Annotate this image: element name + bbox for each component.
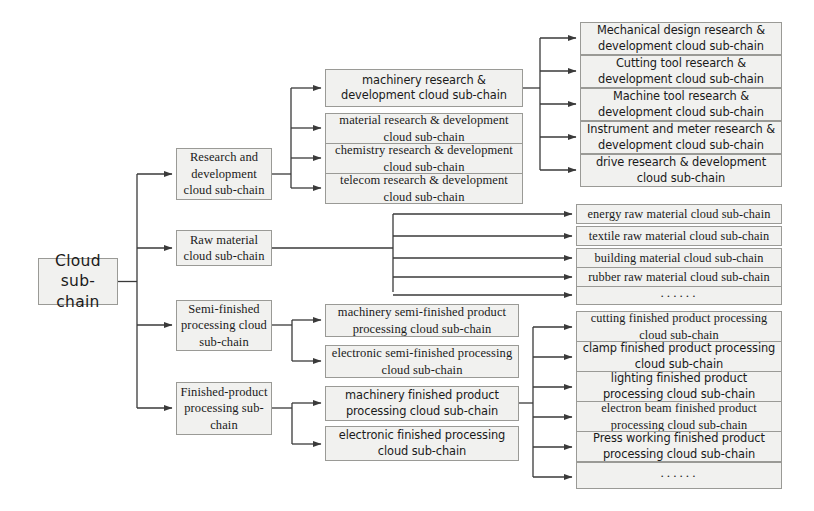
node-label: drive research & development cloud sub-c… (584, 155, 778, 185)
node-cutting-finished[interactable]: cutting finished product processing clou… (576, 311, 782, 342)
node-rubber-raw-material[interactable]: rubber raw material cloud sub-chain (576, 267, 782, 287)
node-finished-more[interactable]: ······ (576, 462, 782, 489)
node-electronic-finished[interactable]: electronic finished processing cloud sub… (325, 426, 519, 461)
node-chemistry-rd[interactable]: chemistry research & development cloud s… (325, 143, 523, 174)
node-clamp-finished[interactable]: clamp finished product processing cloud … (576, 341, 782, 372)
node-label: lighting finished product processing clo… (580, 371, 778, 401)
node-label: telecom research & development cloud sub… (329, 172, 519, 205)
node-label: electron beam finished product processin… (580, 400, 778, 432)
node-building-material[interactable]: building material cloud sub-chain (576, 248, 782, 268)
node-label: Semi-finished processing cloud sub-chain (180, 301, 268, 351)
node-label: ······ (580, 467, 778, 484)
node-machine-tool-rd[interactable]: Machine tool research & development clou… (580, 88, 782, 121)
node-mechanical-design-rd[interactable]: Mechanical design research & development… (580, 22, 782, 55)
node-label: ······ (580, 287, 778, 304)
node-label: machinery semi-finished product processi… (329, 304, 515, 337)
node-machinery-semi-finished[interactable]: machinery semi-finished product processi… (325, 304, 519, 337)
node-label: material research & development cloud su… (329, 112, 519, 145)
node-machinery-rd[interactable]: machinery research & development cloud s… (325, 69, 523, 107)
node-label: chemistry research & development cloud s… (329, 142, 519, 175)
node-lighting-finished[interactable]: lighting finished product processing clo… (576, 371, 782, 402)
node-label: Mechanical design research & development… (584, 23, 778, 53)
node-electron-beam-finished[interactable]: electron beam finished product processin… (576, 401, 782, 432)
node-raw-material-more[interactable]: ······ (576, 286, 782, 305)
node-label: Instrument and meter research & developm… (584, 122, 778, 152)
node-label: Machine tool research & development clou… (584, 89, 778, 119)
node-raw-material[interactable]: Raw material cloud sub-chain (176, 230, 272, 266)
node-label: machinery finished product processing cl… (329, 388, 515, 418)
node-label: machinery research & development cloud s… (329, 73, 519, 103)
node-finished-product-processing[interactable]: Finished-product processing sub-chain (176, 382, 272, 435)
node-label: textile raw material cloud sub-chain (580, 228, 778, 244)
node-cutting-tool-rd[interactable]: Cutting tool research & development clou… (580, 55, 782, 88)
node-press-working-finished[interactable]: Press working finished product processin… (576, 431, 782, 462)
node-label: cutting finished product processing clou… (580, 310, 778, 342)
node-label: electronic semi-finished processing clou… (329, 345, 515, 378)
diagram-canvas: Cloud sub-chain Research and development… (0, 0, 814, 511)
node-label: electronic finished processing cloud sub… (329, 428, 515, 458)
node-machinery-finished[interactable]: machinery finished product processing cl… (325, 386, 519, 421)
node-label: rubber raw material cloud sub-chain (580, 269, 778, 285)
node-drive-rd[interactable]: drive research & development cloud sub-c… (580, 154, 782, 187)
node-label: energy raw material cloud sub-chain (580, 206, 778, 222)
node-energy-raw-material[interactable]: energy raw material cloud sub-chain (576, 204, 782, 224)
node-telecom-rd[interactable]: telecom research & development cloud sub… (325, 173, 523, 204)
node-instrument-meter-rd[interactable]: Instrument and meter research & developm… (580, 121, 782, 154)
node-label: building material cloud sub-chain (580, 250, 778, 266)
node-root-cloud-sub-chain[interactable]: Cloud sub-chain (38, 258, 118, 305)
node-label: Research and development cloud sub-chain (180, 149, 268, 199)
node-semi-finished-processing[interactable]: Semi-finished processing cloud sub-chain (176, 300, 272, 351)
node-label: Finished-product processing sub-chain (180, 384, 268, 434)
node-textile-raw-material[interactable]: textile raw material cloud sub-chain (576, 226, 782, 246)
node-electronic-semi-finished[interactable]: electronic semi-finished processing clou… (325, 345, 519, 378)
node-label: clamp finished product processing cloud … (580, 341, 778, 371)
node-label: Press working finished product processin… (580, 431, 778, 461)
node-material-rd[interactable]: material research & development cloud su… (325, 113, 523, 144)
node-research-and-development[interactable]: Research and development cloud sub-chain (176, 148, 272, 200)
node-label: Cutting tool research & development clou… (584, 56, 778, 86)
node-label: Cloud sub-chain (42, 251, 114, 312)
node-label: Raw material cloud sub-chain (180, 232, 268, 265)
